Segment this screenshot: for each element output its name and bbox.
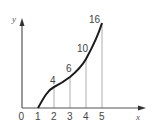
value-label-4: 4 xyxy=(50,75,56,86)
function-graph: y x 0 1 2 3 4 5 4 6 10 16 xyxy=(0,0,152,125)
x-tick-2: 2 xyxy=(51,111,57,122)
value-label-16: 16 xyxy=(89,14,101,25)
x-tick-0: 0 xyxy=(19,111,25,122)
x-tick-5: 5 xyxy=(99,111,105,122)
y-axis-arrow-icon xyxy=(20,18,25,26)
x-tick-4: 4 xyxy=(83,111,89,122)
value-label-6: 6 xyxy=(66,63,72,74)
x-axis-arrow-icon xyxy=(138,106,146,111)
x-tick-3: 3 xyxy=(67,111,73,122)
x-axis-label: x xyxy=(135,112,140,122)
y-axis-label: y xyxy=(11,14,16,24)
x-tick-1: 1 xyxy=(35,111,41,122)
value-label-10: 10 xyxy=(77,43,89,54)
